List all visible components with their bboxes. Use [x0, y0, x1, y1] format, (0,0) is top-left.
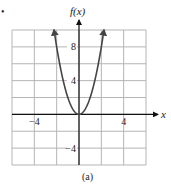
y-tick-label: 8 — [71, 41, 76, 52]
chart-caption: (a) — [82, 171, 93, 183]
y-tick-label: 4 — [71, 75, 76, 86]
x-axis-label: x — [160, 108, 166, 120]
y-axis-label: f(x) — [70, 5, 86, 18]
curve-right-branch — [79, 30, 104, 115]
bullet-marker: • — [1, 6, 5, 17]
y-tick-label: −4 — [65, 143, 76, 154]
x-tick-label: −4 — [29, 116, 40, 127]
parabola-chart: • −4484−4 f(x) x (a) — [0, 0, 171, 192]
x-tick-label: 4 — [121, 116, 126, 127]
